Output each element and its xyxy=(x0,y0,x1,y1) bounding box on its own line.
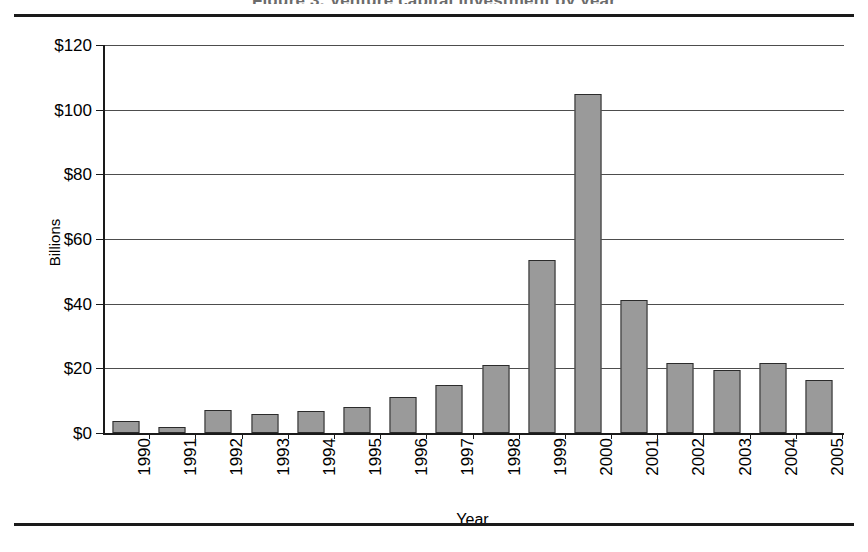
bar-slot xyxy=(149,45,195,433)
y-tick-label-80: $80 xyxy=(0,166,92,183)
bar-chart-figure: Billions $0$20$40$60$80$100$120 19901991… xyxy=(0,22,868,518)
bar-slot xyxy=(288,45,334,433)
bar-slot xyxy=(796,45,842,433)
bar-2000[interactable] xyxy=(574,94,601,434)
bar-2003[interactable] xyxy=(713,370,740,433)
y-tick-mark-80 xyxy=(96,174,103,175)
bar-slot xyxy=(565,45,611,433)
x-tick-label-1993: 1993 xyxy=(274,438,294,500)
bar-slot xyxy=(380,45,426,433)
x-tick-label-2000: 2000 xyxy=(597,438,617,500)
y-tick-label-40: $40 xyxy=(0,296,92,313)
bar-slot xyxy=(657,45,703,433)
bar-slot xyxy=(519,45,565,433)
x-tick-label-1998: 1998 xyxy=(505,438,525,500)
y-tick-label-60: $60 xyxy=(0,231,92,248)
bar-slot xyxy=(473,45,519,433)
bottom-horizontal-rule xyxy=(14,523,854,526)
bar-slot xyxy=(242,45,288,433)
y-tick-mark-0 xyxy=(96,433,103,434)
bar-slot xyxy=(750,45,796,433)
bar-slot xyxy=(334,45,380,433)
y-tick-label-20: $20 xyxy=(0,360,92,377)
x-tick-label-2004: 2004 xyxy=(782,438,802,500)
x-tick-label-2001: 2001 xyxy=(643,438,663,500)
bar-2004[interactable] xyxy=(759,363,786,433)
top-horizontal-rule xyxy=(14,14,854,17)
bar-1995[interactable] xyxy=(344,407,371,433)
chart-page: Figure 3. Venture capital investment by … xyxy=(0,0,868,552)
bar-slot xyxy=(611,45,657,433)
x-tick-label-2003: 2003 xyxy=(736,438,756,500)
bar-1996[interactable] xyxy=(390,397,417,433)
bar-2001[interactable] xyxy=(621,300,648,433)
bar-1999[interactable] xyxy=(528,260,555,433)
y-tick-mark-40 xyxy=(96,304,103,305)
bar-1990[interactable] xyxy=(113,421,140,433)
x-axis-title: Year xyxy=(103,511,842,529)
bar-1998[interactable] xyxy=(482,365,509,433)
bar-slot xyxy=(195,45,241,433)
x-tick-label-1994: 1994 xyxy=(320,438,340,500)
bar-2002[interactable] xyxy=(667,363,694,433)
x-tick-label-2005: 2005 xyxy=(828,438,848,500)
x-tick-label-1995: 1995 xyxy=(366,438,386,500)
partial-figure-heading: Figure 3. Venture capital investment by … xyxy=(0,0,868,4)
bar-1994[interactable] xyxy=(297,411,324,433)
bar-1993[interactable] xyxy=(251,414,278,433)
bar-1997[interactable] xyxy=(436,385,463,433)
y-tick-label-100: $100 xyxy=(0,102,92,119)
x-tick-label-1990: 1990 xyxy=(135,438,155,500)
x-axis-labels-group: 1990199119921993199419951996199719981999… xyxy=(103,442,842,504)
x-tick-label-1997: 1997 xyxy=(458,438,478,500)
x-tick-label-1992: 1992 xyxy=(227,438,247,500)
y-tick-label-120: $120 xyxy=(0,37,92,54)
x-tick-label-1996: 1996 xyxy=(412,438,432,500)
bar-2005[interactable] xyxy=(805,380,832,433)
y-tick-label-0: $0 xyxy=(0,425,92,442)
y-tick-mark-100 xyxy=(96,110,103,111)
bar-slot xyxy=(426,45,472,433)
x-tick-label-2002: 2002 xyxy=(689,438,709,500)
y-tick-mark-20 xyxy=(96,368,103,369)
bar-1992[interactable] xyxy=(205,410,232,433)
x-tick-label-1999: 1999 xyxy=(551,438,571,500)
bar-slot xyxy=(703,45,749,433)
y-tick-mark-60 xyxy=(96,239,103,240)
bar-slot xyxy=(103,45,149,433)
bars-group xyxy=(103,45,842,433)
y-tick-mark-120 xyxy=(96,45,103,46)
x-tick-label-1991: 1991 xyxy=(181,438,201,500)
